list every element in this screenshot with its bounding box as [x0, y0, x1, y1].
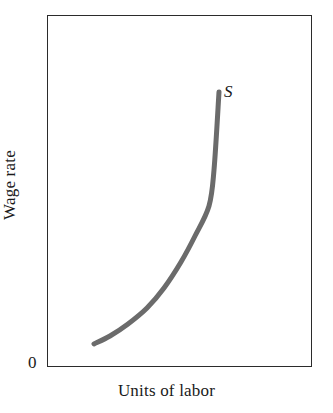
x-axis-label: Units of labor: [0, 381, 333, 401]
plot-area-frame: [47, 15, 312, 367]
y-axis-label: Wage rate: [0, 150, 20, 220]
figure-container: S 0 Wage rate Units of labor: [0, 0, 333, 413]
origin-label: 0: [28, 353, 37, 373]
y-axis-label-text: Wage rate: [0, 150, 20, 220]
supply-curve-label: S: [224, 82, 233, 102]
